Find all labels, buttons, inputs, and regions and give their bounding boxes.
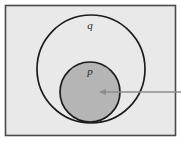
euler-diagram-figure: q p [0,0,181,142]
outer-set-label: q [87,19,93,31]
diagram-canvas: q p [0,0,181,142]
inner-set-label: p [86,65,93,77]
